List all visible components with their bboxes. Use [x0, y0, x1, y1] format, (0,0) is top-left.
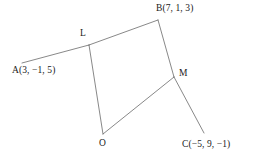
figure-lines [0, 0, 274, 164]
segment-o-m [103, 77, 174, 134]
geometry-diagram: A(3, −1, 5) B(7, 1, 3) C(−5, 9, −1) L M … [0, 0, 274, 164]
vertex-label-l: L [80, 29, 86, 39]
vertex-label-c: C(−5, 9, −1) [182, 140, 230, 150]
segment-group [22, 20, 204, 134]
vertex-label-m: M [179, 69, 188, 79]
segment-l-o [89, 45, 103, 134]
vertex-label-b: B(7, 1, 3) [156, 4, 193, 14]
segment-b-m [158, 20, 174, 77]
segment-m-c [174, 77, 204, 133]
segment-l-b [89, 20, 158, 45]
vertex-label-a: A(3, −1, 5) [12, 66, 55, 76]
vertex-label-o: O [99, 139, 106, 149]
segment-a-l [22, 45, 89, 63]
